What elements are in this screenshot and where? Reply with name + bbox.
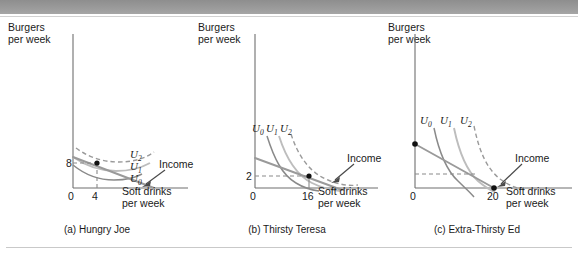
x-axis-title-line2: per week xyxy=(122,198,172,210)
bottom-rule xyxy=(6,247,572,248)
x-axis-title: Soft drinks per week xyxy=(122,186,172,209)
income-arrow-line xyxy=(146,170,165,184)
panel-thirsty-teresa: Burgers per week 2 0 16 U0 U1 U2 Income xyxy=(192,18,382,248)
origin-label: 0 xyxy=(410,190,416,202)
optimum-point xyxy=(306,173,311,178)
income-label: Income xyxy=(515,152,549,164)
x-axis-title-line2: per week xyxy=(318,198,368,210)
origin-label: 0 xyxy=(250,190,256,202)
banner-underline xyxy=(0,16,578,17)
curve-label-u1: U1 xyxy=(440,114,452,129)
panel-hungry-joe: Burgers per week 8 0 4 U2 U1 xyxy=(2,18,192,248)
panel-caption: (a) Hungry Joe xyxy=(2,224,192,235)
x-axis-title-line1: Soft drinks xyxy=(506,186,556,198)
income-arrow-line xyxy=(501,164,522,184)
x-tick-label: 4 xyxy=(92,190,98,202)
origin-label: 0 xyxy=(68,190,74,202)
curve-label-u1: U1 xyxy=(266,122,278,137)
income-label: Income xyxy=(347,152,381,164)
x-axis-title: Soft drinks per week xyxy=(318,186,368,209)
curve-label-u0: U0 xyxy=(420,114,432,129)
curve-label-u0: U0 xyxy=(252,122,264,137)
figure-root: Burgers per week 8 0 4 U2 U1 xyxy=(0,0,578,256)
y-tick-label: 8 xyxy=(66,157,72,169)
y-tick-label: 2 xyxy=(246,170,252,182)
x-axis-title: Soft drinks per week xyxy=(506,186,556,209)
x-tick-label: 16 xyxy=(302,190,314,202)
x-axis-title-line1: Soft drinks xyxy=(318,186,368,198)
indifference-curve-u0 xyxy=(434,128,474,197)
x-axis-title-line2: per week xyxy=(506,198,556,210)
top-banner xyxy=(0,0,578,14)
budget-y-intercept-point xyxy=(412,141,418,147)
income-label: Income xyxy=(159,158,193,170)
x-axis-title-line1: Soft drinks xyxy=(122,186,172,198)
income-arrow-line xyxy=(335,164,354,180)
income-arrow-head xyxy=(497,181,506,187)
panel-extra-thirsty-ed: Burgers per week 0 20 U0 U1 U2 Income xyxy=(382,18,572,248)
income-arrow-head xyxy=(331,177,340,183)
indifference-curve-u2 xyxy=(76,148,154,162)
panel-caption: (b) Thirsty Teresa xyxy=(192,224,382,235)
budget-line-income xyxy=(415,144,494,188)
optimum-point xyxy=(94,160,99,165)
panel-caption: (c) Extra-Thirsty Ed xyxy=(382,224,572,235)
curve-label-u2: U2 xyxy=(280,122,292,137)
curve-label-u2: U2 xyxy=(460,114,472,129)
x-tick-label: 20 xyxy=(487,190,499,202)
